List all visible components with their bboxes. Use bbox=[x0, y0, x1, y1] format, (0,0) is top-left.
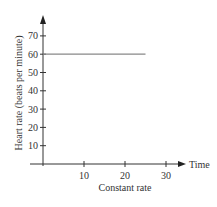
y-tick-label: 40 bbox=[28, 85, 38, 96]
chart-canvas: 10203040506070 102030 Time Heart rate (b… bbox=[0, 0, 217, 207]
y-tick-label: 60 bbox=[28, 49, 38, 60]
x-tick-label: 30 bbox=[161, 170, 171, 181]
x-tick-label: 20 bbox=[120, 170, 130, 181]
y-tick-label: 20 bbox=[28, 122, 38, 133]
x-tick-label: 10 bbox=[79, 170, 89, 181]
y-axis-arrow-icon bbox=[40, 15, 46, 24]
y-tick-label: 10 bbox=[28, 140, 38, 151]
x-axis-title: Time bbox=[189, 159, 210, 170]
y-axis-title: Heart rate (beats per minute) bbox=[13, 36, 25, 151]
x-axis-arrow-icon bbox=[178, 161, 186, 167]
y-tick-label: 50 bbox=[28, 67, 38, 78]
y-tick-label: 70 bbox=[28, 30, 38, 41]
y-tick-label: 30 bbox=[28, 104, 38, 115]
chart-caption: Constant rate bbox=[98, 182, 152, 193]
